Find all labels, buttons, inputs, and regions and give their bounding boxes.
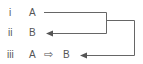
arrowhead-row-iii-icon bbox=[80, 53, 87, 59]
connector-i-to-ii bbox=[44, 13, 107, 34]
connector-lines bbox=[0, 0, 143, 64]
arrowhead-row-ii-icon bbox=[46, 31, 53, 37]
connector-to-iii bbox=[86, 21, 135, 56]
